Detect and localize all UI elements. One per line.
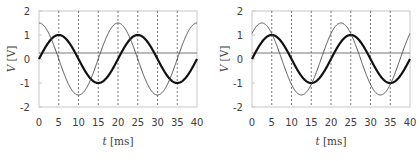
- x-tick-label: 40: [191, 117, 204, 128]
- y-tick-label: -1: [233, 78, 243, 89]
- x-tick-label: 0: [36, 117, 42, 128]
- y-tick-label: -2: [233, 102, 243, 113]
- y-tick-label: 1: [24, 30, 30, 41]
- chart-right-plot: 210-1-20510152025303540t [ms]V [V]: [210, 0, 420, 161]
- x-tick-label: 40: [404, 117, 417, 128]
- y-tick-label: -2: [20, 102, 30, 113]
- x-tick-label: 10: [285, 117, 298, 128]
- x-axis-label: t [ms]: [315, 135, 346, 147]
- x-tick-label: 30: [364, 117, 377, 128]
- y-axis-label: V [V]: [5, 46, 17, 73]
- y-axis-label: V [V]: [218, 46, 230, 73]
- x-tick-label: 15: [92, 117, 105, 128]
- x-axis-label: t [ms]: [102, 135, 133, 147]
- x-tick-label: 25: [131, 117, 144, 128]
- x-tick-label: 0: [249, 117, 255, 128]
- x-tick-label: 35: [171, 117, 184, 128]
- chart-left: 210-1-20510152025303540t [ms]V [V]: [0, 0, 210, 161]
- y-tick-label: 1: [237, 30, 243, 41]
- x-tick-label: 15: [305, 117, 318, 128]
- y-tick-label: 2: [237, 6, 243, 17]
- y-tick-label: -1: [20, 78, 30, 89]
- chart-right: 210-1-20510152025303540t [ms]V [V]: [210, 0, 420, 161]
- x-tick-label: 35: [384, 117, 397, 128]
- x-tick-label: 20: [112, 117, 125, 128]
- y-tick-label: 0: [237, 54, 243, 65]
- chart-left-plot: 210-1-20510152025303540t [ms]V [V]: [0, 0, 210, 161]
- x-tick-label: 30: [151, 117, 164, 128]
- x-tick-label: 25: [344, 117, 357, 128]
- y-tick-label: 0: [24, 54, 30, 65]
- x-tick-label: 10: [72, 117, 85, 128]
- x-tick-label: 5: [269, 117, 275, 128]
- x-tick-label: 5: [56, 117, 62, 128]
- x-tick-label: 20: [325, 117, 338, 128]
- y-tick-label: 2: [24, 6, 30, 17]
